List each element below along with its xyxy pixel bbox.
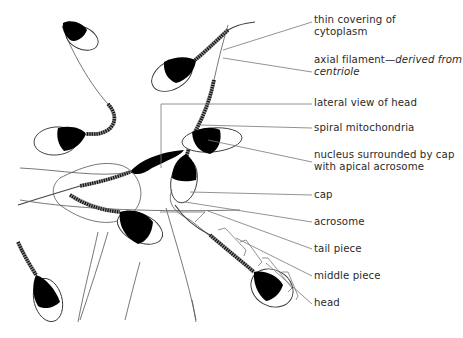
label-line: acrosome: [314, 216, 365, 228]
sperm-cell-5: [167, 154, 240, 262]
label-line-italic: centriole: [314, 66, 360, 77]
label-tail-piece: tail piece: [314, 243, 362, 255]
label-head: head: [314, 297, 340, 309]
label-line: cytoplasm: [314, 26, 396, 38]
sperm-cell-7: [18, 242, 67, 325]
label-middle-piece: middle piece: [314, 270, 381, 282]
label-spiral-mitochondria: spiral mitochondria: [314, 122, 414, 134]
label-line: spiral mitochondria: [314, 122, 414, 134]
sperm-cell-6: [20, 163, 240, 250]
label-line: lateral view of head: [314, 97, 417, 109]
label-nucleus: nucleus surrounded by cap with apical ac…: [314, 149, 454, 173]
label-cap: cap: [314, 189, 333, 201]
label-line: middle piece: [314, 270, 381, 282]
label-line-italic: derived from: [395, 54, 462, 65]
label-line: nucleus surrounded by cap: [314, 149, 454, 161]
lateral-view-head: [18, 150, 184, 205]
label-line: with apical acrosome: [314, 161, 454, 173]
label-thin-covering: thin covering of cytoplasm: [314, 14, 396, 38]
label-acrosome: acrosome: [314, 216, 365, 228]
label-axial-filament: axial filament—derived from centriole: [314, 54, 462, 78]
label-line: axial filament—: [314, 54, 395, 65]
sperm-cell-2: [33, 104, 115, 157]
label-line: thin covering of: [314, 14, 396, 26]
label-line: tail piece: [314, 243, 362, 255]
sperm-cell-4: [181, 80, 243, 158]
sperm-cell-1: [62, 21, 108, 104]
label-lateral-view: lateral view of head: [314, 97, 417, 109]
label-line: cap: [314, 189, 333, 201]
label-line: head: [314, 297, 340, 309]
